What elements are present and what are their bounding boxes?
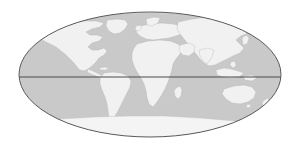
world-map-svg bbox=[0, 0, 301, 146]
world-map-figure: World Map Mollweide elliptical projectio… bbox=[0, 0, 301, 146]
